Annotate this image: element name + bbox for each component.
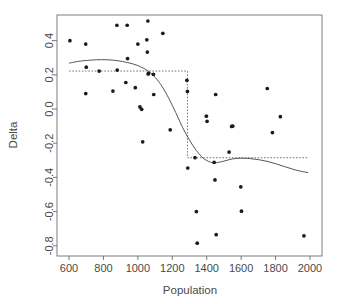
data-point [147,72,151,76]
data-point [126,57,130,61]
data-point [195,241,199,245]
data-point [111,89,115,93]
data-point [185,78,189,82]
data-point [115,23,119,27]
data-point [84,42,88,46]
x-tick-label: 1200 [160,262,184,274]
data-point [84,65,88,69]
data-point [141,140,145,144]
data-point [279,115,283,119]
data-point [227,150,231,154]
y-tick-label: 0.2 [43,67,55,82]
chart-canvas: 0.40.20.0-0.2-0.4-0.6-0.8 60080010001200… [0,0,345,304]
x-tick-label: 600 [60,262,78,274]
data-point [186,166,190,170]
data-point [205,114,209,118]
data-point [168,128,172,132]
x-axis-title: Population [163,284,217,296]
data-point [161,31,165,35]
x-tick-label: 800 [94,262,112,274]
data-point [265,87,269,91]
data-point [115,68,119,72]
data-point [133,86,137,90]
data-point [193,156,197,160]
y-axis-title: Delta [7,121,19,148]
data-point [212,160,216,164]
scatter-plot-figure: 0.40.20.0-0.2-0.4-0.6-0.8 60080010001200… [0,0,345,304]
data-point [231,124,235,128]
x-tick-label: 1800 [263,262,287,274]
data-point [124,81,128,85]
y-tick-label: 0.0 [43,101,55,116]
y-tick-label: -0.8 [43,236,55,255]
data-point [271,131,275,135]
data-point [213,178,217,182]
data-point [214,233,218,237]
data-point [97,69,101,73]
x-tick-label: 1000 [126,262,150,274]
data-point [125,23,129,27]
y-tick-label: -0.4 [43,168,55,187]
x-tick-label: 1400 [194,262,218,274]
data-point [146,19,150,23]
data-point [240,209,244,213]
y-tick-label: 0.4 [43,33,55,48]
x-tick-label: 1600 [229,262,253,274]
data-point [186,90,190,94]
data-point [239,185,243,189]
data-point [214,93,218,97]
y-tick-label: -0.2 [43,134,55,153]
data-point [68,39,72,43]
data-point [152,72,156,76]
data-point [145,50,149,54]
data-point [140,108,144,112]
data-point [152,93,156,97]
y-tick-label: -0.6 [43,202,55,221]
x-tick-label: 2000 [298,262,322,274]
data-point [84,92,88,96]
data-point [145,38,149,42]
data-point [302,234,306,238]
data-point [205,119,209,123]
data-point [195,210,199,214]
data-point [136,42,140,46]
